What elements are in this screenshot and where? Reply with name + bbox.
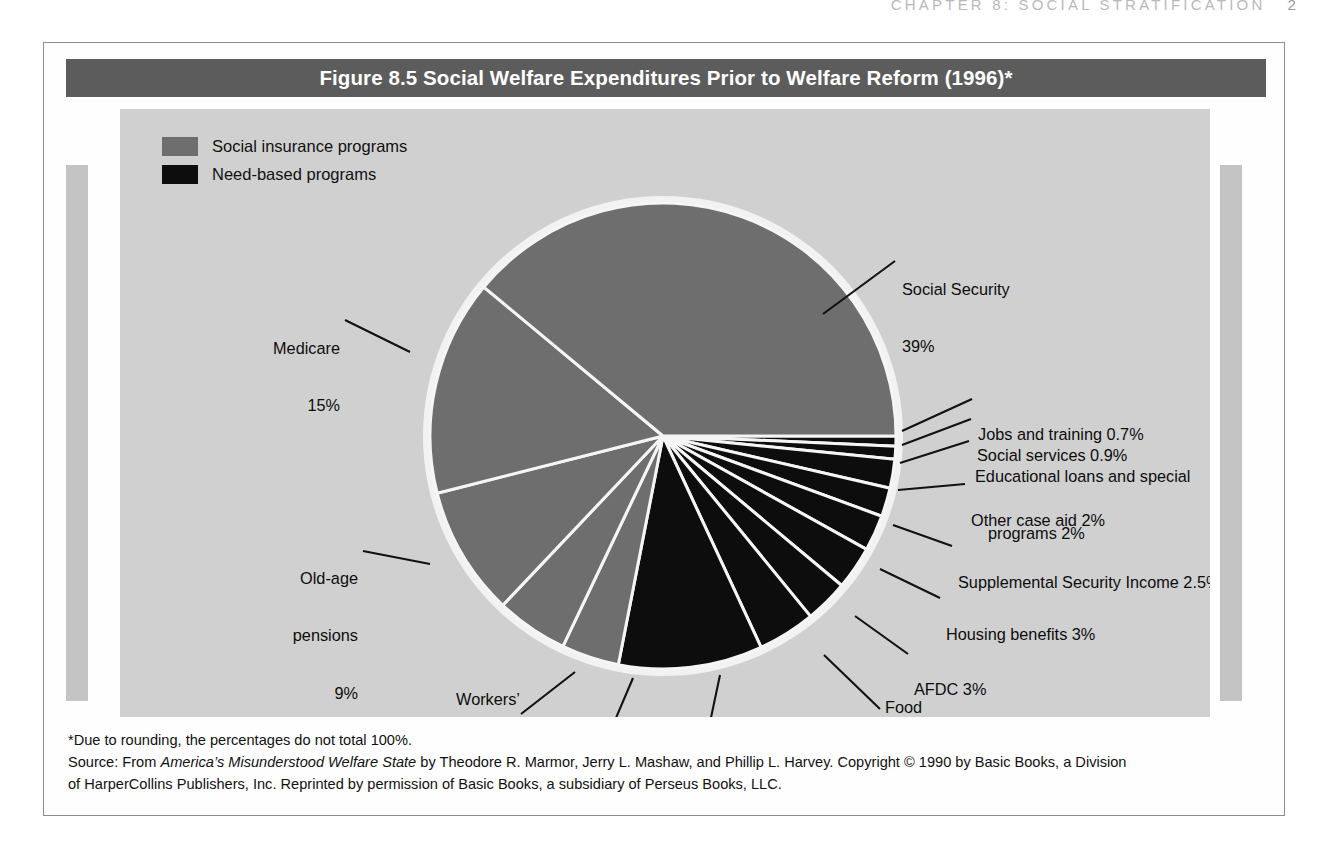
callout-jobs-and-training: Jobs and training 0.7% bbox=[978, 387, 1144, 482]
leader-housing bbox=[880, 569, 940, 598]
leader-food-stamps bbox=[824, 655, 880, 709]
callout-afdc-line1: AFDC 3% bbox=[914, 680, 986, 699]
callout-social-security-line2: 39% bbox=[902, 337, 1010, 356]
leader-afdc bbox=[855, 616, 908, 654]
legend-item-need-based: Need-based programs bbox=[162, 165, 407, 184]
legend-swatch-social-insurance bbox=[162, 137, 198, 156]
figure-frame: Figure 8.5 Social Welfare Expenditures P… bbox=[43, 42, 1285, 816]
legend-item-social-insurance: Social insurance programs bbox=[162, 137, 407, 156]
callout-medicare-line1: Medicare bbox=[180, 339, 340, 358]
legend-label-social-insurance: Social insurance programs bbox=[212, 137, 407, 156]
leader-ssi bbox=[893, 525, 952, 546]
leader-social-services bbox=[902, 419, 971, 445]
page-number: 2 bbox=[1287, 0, 1299, 13]
callout-unemployment-insurance: Unemployment insurance 4% bbox=[519, 685, 629, 717]
footnote-source-line1: Source: From America’s Misunderstood Wel… bbox=[68, 751, 1263, 773]
callout-medicaid: Medicaid 10% bbox=[658, 705, 723, 717]
decorative-strip-right bbox=[1220, 165, 1242, 701]
running-head: CHAPTER 8: SOCIAL STRATIFICATION2 bbox=[0, 0, 1327, 13]
legend-swatch-need-based bbox=[162, 165, 198, 184]
callout-old-age-line3: 9% bbox=[180, 684, 358, 703]
footnote-block: *Due to rounding, the percentages do not… bbox=[68, 729, 1263, 796]
legend-label-need-based: Need-based programs bbox=[212, 165, 376, 184]
callout-medicare: Medicare 15% bbox=[180, 301, 340, 454]
figure-title-bar: Figure 8.5 Social Welfare Expenditures P… bbox=[66, 59, 1266, 97]
footnote-rounding: *Due to rounding, the percentages do not… bbox=[68, 729, 1263, 751]
callout-old-age-pensions: Old-age pensions 9% bbox=[180, 531, 358, 717]
callout-jobs-training-line1: Jobs and training 0.7% bbox=[978, 425, 1144, 444]
callout-old-age-line2: pensions bbox=[180, 626, 358, 645]
callout-medicare-line2: 15% bbox=[180, 396, 340, 415]
leader-medicare bbox=[345, 320, 410, 352]
footnote-source-title: America’s Misunderstood Welfare State bbox=[160, 754, 416, 770]
footnote-source-line2: of HarperCollins Publishers, Inc. Reprin… bbox=[68, 773, 1263, 795]
callout-workers-compensation: Workers’ compensation 5% bbox=[350, 652, 520, 717]
callout-edu-loans-line2: programs 2% bbox=[975, 524, 1190, 543]
leader-jobs-training bbox=[902, 399, 972, 431]
leader-edu-loans bbox=[900, 441, 969, 463]
footnote-source-post: by Theodore R. Marmor, Jerry L. Mashaw, … bbox=[416, 754, 1126, 770]
figure-title: Figure 8.5 Social Welfare Expenditures P… bbox=[319, 66, 1012, 90]
callout-workers-comp-line1: Workers’ bbox=[350, 690, 520, 709]
callout-social-security: Social Security 39% bbox=[902, 242, 1010, 395]
footnote-source-pre: Source: From bbox=[68, 754, 160, 770]
running-head-text: CHAPTER 8: SOCIAL STRATIFICATION bbox=[891, 0, 1266, 13]
chart-plate: Jobs and training 0.7%Social services 0.… bbox=[120, 109, 1210, 717]
leader-old-age bbox=[363, 551, 430, 564]
decorative-strip-left bbox=[66, 165, 88, 701]
callout-old-age-line1: Old-age bbox=[180, 569, 358, 588]
legend: Social insurance programs Need-based pro… bbox=[162, 137, 407, 193]
callout-social-security-line1: Social Security bbox=[902, 280, 1010, 299]
leader-other-case-aid bbox=[898, 484, 965, 490]
pie-slices: Jobs and training 0.7%Social services 0.… bbox=[430, 203, 896, 669]
